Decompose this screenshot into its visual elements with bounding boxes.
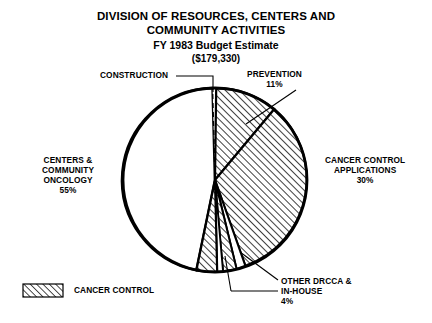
- label-cca-line-1: CANCER CONTROL: [325, 155, 405, 165]
- label-prevention-value: 11%: [247, 79, 302, 89]
- label-other-value: 4%: [281, 296, 352, 306]
- label-other-line-1: OTHER DRCCA &: [281, 276, 352, 286]
- label-other-drcca-in-house: OTHER DRCCA & IN-HOUSE 4%: [281, 276, 352, 306]
- label-prevention-line-1: PREVENTION: [247, 69, 302, 79]
- label-cca-value: 30%: [325, 175, 405, 185]
- label-prevention: PREVENTION 11%: [247, 69, 302, 89]
- label-cancer-control-applications: CANCER CONTROL APPLICATIONS 30%: [325, 155, 405, 185]
- legend-label-cancer-control: CANCER CONTROL: [74, 285, 154, 295]
- label-cca-line-2: APPLICATIONS: [325, 165, 405, 175]
- label-centers-line-3: ONCOLOGY: [42, 175, 94, 185]
- label-other-line-2: IN-HOUSE: [281, 286, 352, 296]
- label-centers-line-2: COMMUNITY: [42, 165, 94, 175]
- chart-legend: CANCER CONTROL: [22, 283, 154, 296]
- label-construction-line-1: CONSTRUCTION: [100, 70, 168, 80]
- label-construction: CONSTRUCTION: [100, 70, 168, 80]
- chart-page: DIVISION OF RESOURCES, CENTERS AND COMMU…: [0, 0, 432, 323]
- label-centers-community-oncology: CENTERS & COMMUNITY ONCOLOGY 55%: [42, 155, 94, 195]
- label-centers-line-1: CENTERS &: [42, 155, 94, 165]
- label-centers-value: 55%: [42, 185, 94, 195]
